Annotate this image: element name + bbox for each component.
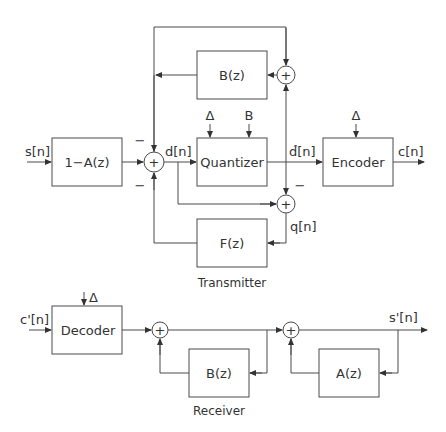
quantizer-bits-label: B (245, 108, 254, 123)
encoder-block: Encoder (323, 138, 393, 186)
dpcm-block-diagram: s[n] 1−A(z) + − − d[n] Quantizer Δ B d̂[… (0, 0, 446, 432)
quantizer-block: Quantizer (197, 138, 267, 186)
quantizer-label: Quantizer (200, 155, 264, 170)
receiver: c'[n] Decoder Δ + B(z) + (20, 290, 427, 418)
signal-q-label: q[n] (290, 219, 317, 234)
error-summing-junction: + (277, 195, 295, 213)
receiver-a-loop-line (380, 330, 398, 373)
plus-icon: + (281, 197, 292, 212)
receiver-a-filter-block: A(z) (319, 349, 379, 397)
quantizer-delta-label: Δ (206, 108, 215, 123)
main-summing-junction: + (144, 152, 164, 172)
encoder-delta-label: Δ (352, 108, 361, 123)
minus-sign-error: − (295, 178, 306, 193)
encoder-label: Encoder (331, 155, 385, 170)
top-summing-junction: + (277, 66, 295, 84)
decoder-block: Decoder (52, 306, 122, 354)
receiver-b-filter-block: B(z) (189, 349, 249, 397)
signal-sprime-label: s'[n] (389, 310, 418, 325)
plus-icon: + (149, 155, 160, 170)
noise-filter-block: F(z) (197, 219, 267, 267)
transmitter-caption: Transmitter (197, 276, 267, 290)
receiver-caption: Receiver (193, 404, 245, 418)
decoder-label: Decoder (61, 323, 116, 338)
receiver-sum-1: + (152, 322, 168, 338)
receiver-b-return-line (160, 339, 189, 373)
transmitter-b-filter-block: B(z) (197, 51, 267, 99)
signal-d-label: d[n] (165, 144, 192, 159)
receiver-sum-2: + (283, 322, 299, 338)
plus-icon: + (286, 323, 297, 338)
receiver-b-loop-line (250, 330, 267, 373)
f-feedback-line (154, 173, 197, 243)
signal-cprime-label: c'[n] (20, 312, 49, 327)
minus-sign-top: − (135, 133, 146, 148)
receiver-a-return-line (291, 339, 319, 373)
receiver-a-label: A(z) (336, 366, 362, 381)
minus-sign-bottom: − (135, 178, 146, 193)
transmitter: s[n] 1−A(z) + − − d[n] Quantizer Δ B d̂[… (25, 27, 424, 290)
signal-dhat-label: d̂[n] (289, 144, 316, 159)
receiver-b-label: B(z) (206, 366, 232, 381)
q-line (268, 213, 286, 243)
decoder-delta-label: Δ (89, 290, 98, 305)
signal-c-label: c[n] (398, 144, 424, 159)
plus-icon: + (155, 323, 166, 338)
b-filter-label: B(z) (219, 68, 245, 83)
prefilter-block: 1−A(z) (52, 138, 122, 186)
f-filter-label: F(z) (220, 236, 244, 251)
prefilter-label: 1−A(z) (64, 155, 109, 170)
signal-s-label: s[n] (25, 144, 50, 159)
plus-icon: + (281, 68, 292, 83)
